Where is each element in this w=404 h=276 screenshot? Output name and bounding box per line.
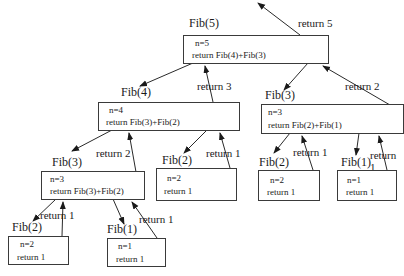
node-return: return 1	[17, 252, 45, 262]
node-box-fib4: n=4 return Fib(3)+Fib(2)	[98, 102, 240, 131]
node-n: n=5	[195, 38, 209, 48]
node-title-fib5: Fib(5)	[189, 16, 219, 31]
node-box-fib3r: n=3 return Fib(2)+Fib(1)	[261, 104, 404, 134]
call-arrow-fib3r-fib2r	[274, 133, 290, 153]
node-box-fib1b: n=1 return 1	[107, 238, 166, 267]
label-return-fib2r-fib3r: return 1	[293, 146, 328, 158]
node-title-fib3l: Fib(3)	[52, 155, 82, 170]
label-return-fib3r-fib5: return 2	[345, 80, 380, 92]
node-return: return Fib(3)+Fib(2)	[50, 186, 124, 196]
node-box-fib5: n=5 return Fib(4)+Fib(3)	[183, 35, 329, 64]
node-n: n=1	[118, 241, 132, 251]
node-box-fib1r: n=1 return 1	[337, 170, 397, 201]
node-n: n=1	[347, 175, 361, 185]
node-return: return 1	[346, 187, 374, 197]
node-return: return 1	[267, 187, 295, 197]
node-title-fib3r: Fib(3)	[265, 88, 295, 103]
node-title-fib1r: Fib(1)	[341, 155, 371, 170]
node-return: return Fib(4)+Fib(3)	[192, 50, 266, 60]
node-title-fib2b: Fib(2)	[12, 220, 42, 235]
node-n: n=2	[20, 239, 34, 249]
call-arrow-fib3r-fib1r	[356, 133, 359, 155]
node-box-fib3l: n=3 return Fib(3)+Fib(2)	[41, 171, 145, 200]
call-arrow-fib3l-fib1b	[113, 199, 124, 224]
label-return-fib2m-fib4: return 1	[206, 147, 241, 159]
node-n: n=3	[50, 174, 64, 184]
node-n: n=2	[270, 175, 284, 185]
node-title-fib2m: Fib(2)	[162, 153, 192, 168]
call-arrow-fib5-fib4	[140, 63, 193, 86]
node-n: n=2	[167, 173, 181, 183]
label-return-fib3l-fib4: return 2	[96, 147, 131, 159]
label-return-fib2b-fib3l: return 1	[40, 209, 75, 221]
call-arrow-fib4-fib2m	[184, 130, 207, 153]
node-title-fib2r: Fib(2)	[259, 155, 289, 170]
node-title-fib4: Fib(4)	[121, 85, 151, 100]
node-return: return Fib(3)+Fib(2)	[106, 117, 180, 127]
node-return: return 1	[164, 186, 192, 196]
node-n: n=3	[268, 107, 282, 117]
node-return: return 1	[116, 254, 144, 264]
node-box-fib2r: n=2 return 1	[258, 170, 320, 201]
call-arrow-fib5-fib3r	[284, 63, 308, 90]
node-box-fib2b: n=2 return 1	[8, 236, 69, 265]
label-return-fib1b-fib3l: return 1	[139, 213, 174, 225]
label-return-top: return 5	[298, 17, 333, 29]
node-n: n=4	[109, 105, 123, 115]
node-return: return Fib(2)+Fib(1)	[268, 120, 342, 130]
node-box-fib2m: n=2 return 1	[156, 168, 237, 201]
node-title-fib1b: Fib(1)	[107, 222, 137, 237]
label-return-fib4-fib5: return 3	[197, 80, 232, 92]
return-arrow-top	[258, 3, 300, 35]
